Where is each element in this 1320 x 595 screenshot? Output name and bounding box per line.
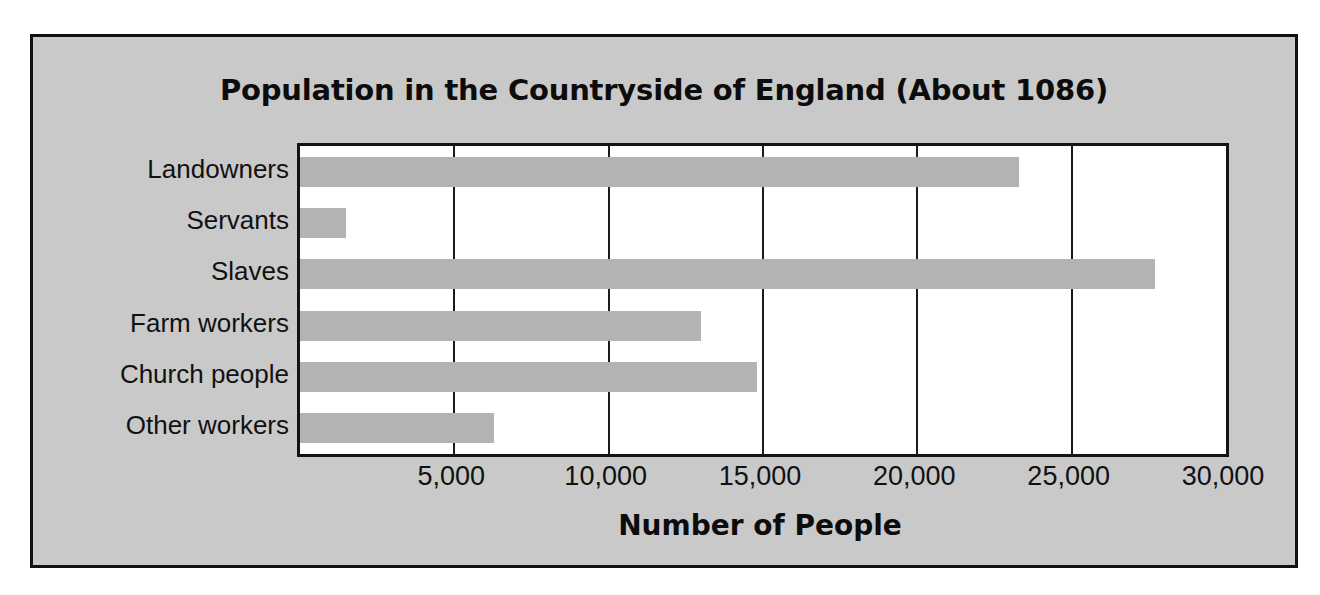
category-label-other-workers: Other workers: [59, 410, 289, 441]
category-label-landowners: Landowners: [59, 153, 289, 184]
x-tick-label-25000: 25,000: [1027, 461, 1110, 492]
plot-area: [297, 143, 1229, 457]
category-label-servants: Servants: [59, 205, 289, 236]
bar-row: [300, 311, 1226, 341]
bar-church-people: [300, 362, 757, 392]
bar-landowners: [300, 157, 1019, 187]
x-tick-label-5000: 5,000: [418, 461, 486, 492]
x-tick-label-20000: 20,000: [873, 461, 956, 492]
gridline-20000: [916, 146, 918, 454]
gridline-25000: [1071, 146, 1073, 454]
chart-title: Population in the Countryside of England…: [33, 73, 1295, 107]
category-label-farm-workers: Farm workers: [59, 307, 289, 338]
bar-row: [300, 413, 1226, 443]
bar-slaves: [300, 259, 1155, 289]
y-axis-category-labels: LandownersServantsSlavesFarm workersChur…: [53, 143, 289, 451]
gridline-15000: [762, 146, 764, 454]
bar-row: [300, 208, 1226, 238]
chart-figure-frame: Population in the Countryside of England…: [30, 34, 1298, 568]
bar-row: [300, 259, 1226, 289]
bar-row: [300, 362, 1226, 392]
x-tick-label-10000: 10,000: [564, 461, 647, 492]
category-label-church-people: Church people: [59, 359, 289, 390]
bar-farm-workers: [300, 311, 701, 341]
x-axis-tick-labels: 5,00010,00015,00020,00025,00030,000: [33, 461, 1295, 501]
bar-other-workers: [300, 413, 494, 443]
x-tick-label-15000: 15,000: [719, 461, 802, 492]
bar-row: [300, 157, 1226, 187]
bar-servants: [300, 208, 346, 238]
x-tick-label-30000: 30,000: [1182, 461, 1265, 492]
x-axis-title: Number of People: [297, 509, 1223, 542]
category-label-slaves: Slaves: [59, 256, 289, 287]
gridline-10000: [608, 146, 610, 454]
gridline-5000: [453, 146, 455, 454]
